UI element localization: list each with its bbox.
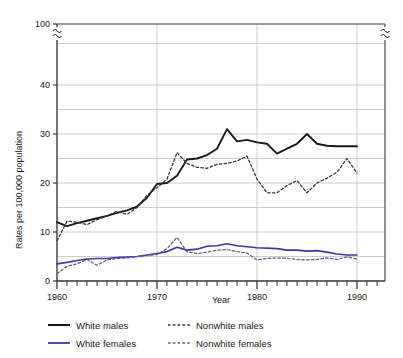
x-axis-title: Year [212, 295, 230, 305]
legend-label-white-males: White males [76, 320, 129, 331]
y-tick-label: 100 [35, 19, 50, 29]
chart-background [0, 0, 403, 358]
y-axis-title: Rates per 100,000 population [14, 131, 24, 249]
y-tick-label: 30 [40, 129, 50, 139]
legend-label-white-females: White females [76, 338, 136, 349]
x-tick-label: 1970 [147, 292, 167, 302]
axis-break-mask [381, 27, 390, 40]
x-tick-label: 1990 [347, 292, 367, 302]
rates-line-chart: 010203040100 1960197019801990 Rates per … [0, 0, 403, 358]
legend-label-nonwhite-males: Nonwhite males [196, 320, 264, 331]
figure-container: 010203040100 1960197019801990 Rates per … [0, 0, 403, 358]
y-tick-label: 0 [45, 276, 50, 286]
y-tick-label: 10 [40, 227, 50, 237]
x-tick-label: 1960 [47, 292, 67, 302]
y-tick-label: 20 [40, 178, 50, 188]
axis-break-mask [53, 27, 62, 40]
y-tick-label: 40 [40, 80, 50, 90]
legend-label-nonwhite-females: Nonwhite females [196, 338, 272, 349]
x-tick-label: 1980 [247, 292, 267, 302]
